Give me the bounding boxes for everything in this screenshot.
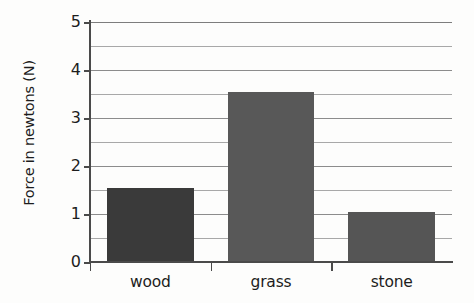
x-category-label-wood: wood [130, 273, 171, 291]
y-tick-mark [84, 22, 90, 24]
y-tick-label: 0 [71, 254, 81, 270]
gridline [90, 46, 452, 47]
y-tick-mark [84, 70, 90, 72]
y-axis-title-text: Force in newtons (N) [21, 60, 37, 206]
plot-area [90, 22, 452, 262]
y-axis-title: Force in newtons (N) [14, 0, 44, 265]
gridline [90, 22, 452, 24]
x-category-label-grass: grass [251, 273, 292, 291]
y-tick-label: 1 [71, 206, 81, 222]
y-tick-mark [84, 118, 90, 120]
y-tick-mark [84, 214, 90, 216]
y-tick-label: 4 [71, 62, 81, 78]
y-axis-line [89, 20, 91, 264]
y-tick-label: 2 [71, 158, 81, 174]
y-tick-mark [84, 166, 90, 168]
y-tick-label: 3 [71, 110, 81, 126]
bar-chart-figure: Force in newtons (N) 012345 woodgrasssto… [0, 0, 474, 303]
y-tick-label: 5 [71, 14, 81, 30]
gridline [90, 70, 452, 71]
x-tick-mark [331, 262, 332, 271]
x-category-label-stone: stone [371, 273, 413, 291]
x-tick-mark [211, 262, 212, 271]
x-tick-mark [90, 262, 91, 271]
bar-wood [107, 188, 194, 262]
bar-stone [348, 212, 435, 262]
bar-grass [228, 92, 315, 262]
x-axis-line [89, 261, 453, 263]
